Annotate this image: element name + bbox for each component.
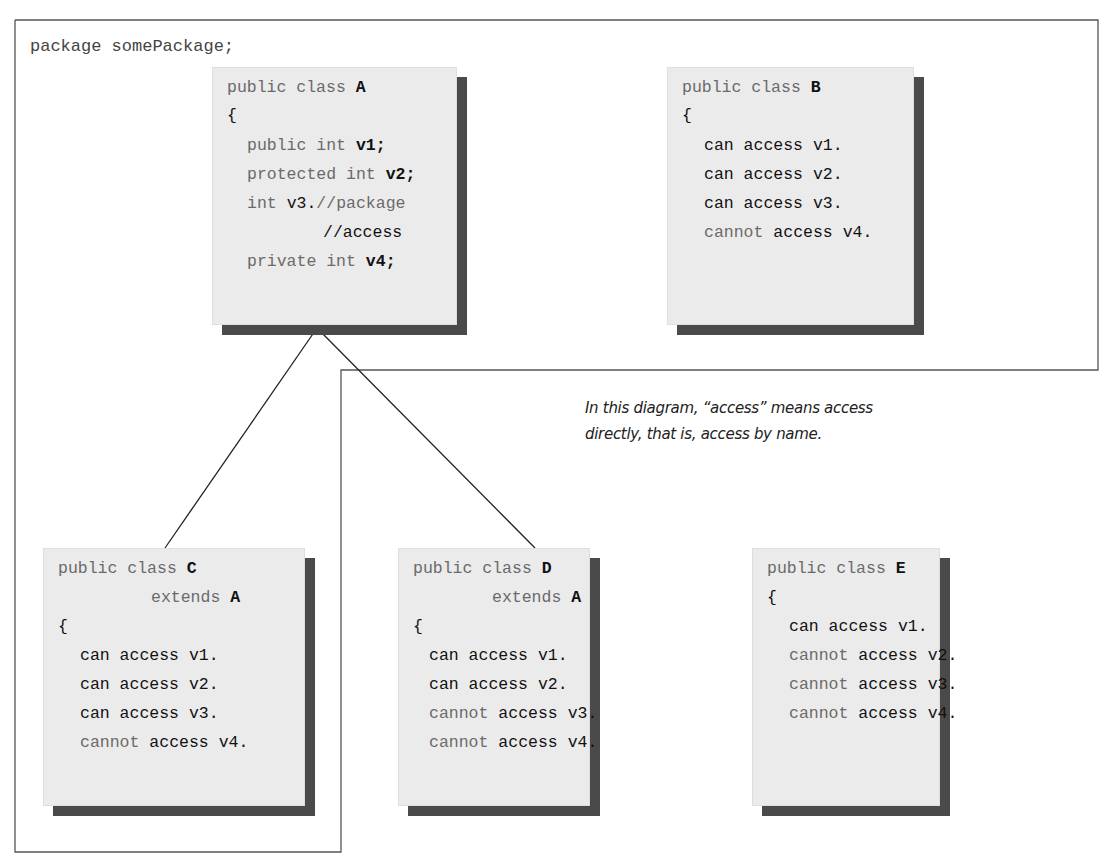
caption-line-2: directly, that is, access by name. bbox=[585, 421, 873, 447]
diagram-caption: In this diagram, “access” means access d… bbox=[585, 395, 873, 447]
class-d-open-brace: { bbox=[413, 617, 423, 636]
class-c-box: public class C extends A { can access v1… bbox=[43, 548, 305, 806]
access-row: can access v1. bbox=[704, 136, 843, 155]
access-row: cannot access v3. bbox=[429, 704, 597, 723]
class-c-open-brace: { bbox=[58, 617, 68, 636]
access-row: can access v2. bbox=[80, 675, 219, 694]
class-d-header: public class D bbox=[413, 559, 552, 578]
access-row: cannot access v2. bbox=[789, 646, 957, 665]
access-row: cannot access v4. bbox=[429, 733, 597, 752]
class-e-header: public class E bbox=[767, 559, 906, 578]
class-b-open-brace: { bbox=[682, 106, 692, 125]
access-row: can access v2. bbox=[429, 675, 568, 694]
member-v4: private int v4; bbox=[247, 252, 396, 271]
caption-line-1: In this diagram, “access” means access bbox=[585, 395, 873, 421]
access-row: can access v1. bbox=[80, 646, 219, 665]
access-row: can access v2. bbox=[704, 165, 843, 184]
access-row: can access v1. bbox=[429, 646, 568, 665]
access-row: can access v3. bbox=[80, 704, 219, 723]
class-e-box: public class E { can access v1. cannot a… bbox=[752, 548, 940, 806]
class-c-extends: extends A bbox=[151, 588, 240, 607]
class-d-extends: extends A bbox=[492, 588, 581, 607]
member-v3-comment-cont: //access bbox=[323, 223, 402, 242]
class-a-box: public class A { public int v1; protecte… bbox=[212, 67, 457, 325]
class-a-header: public class A bbox=[227, 78, 366, 97]
access-row: can access v1. bbox=[789, 617, 928, 636]
package-declaration: package somePackage; bbox=[30, 37, 234, 56]
member-v2: protected int v2; bbox=[247, 165, 415, 184]
member-v3: int v3.//package bbox=[247, 194, 405, 213]
access-row: can access v3. bbox=[704, 194, 843, 213]
member-v1: public int v1; bbox=[247, 136, 386, 155]
access-row: cannot access v4. bbox=[80, 733, 248, 752]
class-e-open-brace: { bbox=[767, 588, 777, 607]
class-c-header: public class C bbox=[58, 559, 197, 578]
inheritance-line-d bbox=[317, 328, 535, 548]
class-a-open-brace: { bbox=[227, 106, 237, 125]
class-b-header: public class B bbox=[682, 78, 821, 97]
access-row: cannot access v3. bbox=[789, 675, 957, 694]
inheritance-line-c bbox=[165, 328, 317, 548]
access-row: cannot access v4. bbox=[789, 704, 957, 723]
class-d-box: public class D extends A { can access v1… bbox=[398, 548, 590, 806]
class-b-box: public class B { can access v1. can acce… bbox=[667, 67, 914, 325]
access-row: cannot access v4. bbox=[704, 223, 872, 242]
